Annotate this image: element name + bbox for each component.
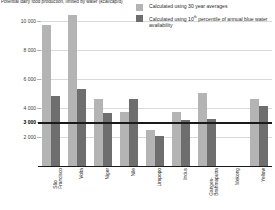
- bar-series-group: [38, 15, 272, 166]
- y-axis-tick-mark: [37, 79, 41, 80]
- legend-item-series-b: Calculated using 10th percentile of annu…: [136, 14, 275, 28]
- bar-group: [42, 15, 61, 166]
- legend-swatch-icon-a: [136, 4, 143, 11]
- y-axis-tick-mark: [37, 137, 41, 138]
- legend-item-series-a: Calculated using 30 year averages: [136, 3, 275, 12]
- y-axis-tick-label: 3 000: [2, 119, 36, 125]
- bar-series-a: [94, 99, 103, 166]
- y-axis-tick-label: 10 000: [2, 18, 36, 24]
- chart-legend: Calculated using 30 year averages Calcul…: [136, 3, 275, 30]
- bar-series-a: [120, 112, 129, 166]
- bar-series-b: [51, 96, 60, 166]
- bar-series-b: [129, 99, 138, 167]
- bar-group: [94, 15, 113, 166]
- legend-label-a: Calculated using 30 year averages: [149, 3, 275, 9]
- bar-series-a: [146, 130, 155, 166]
- y-axis-tick-label: 4 000: [2, 105, 36, 111]
- bar-series-a: [250, 99, 259, 167]
- bar-group: [146, 15, 165, 166]
- y-axis-tick-mark: [37, 50, 41, 51]
- gridline-emphasis-3000: [38, 122, 272, 123]
- x-axis-label: Indus: [183, 168, 188, 180]
- y-axis-tick-mark: [37, 108, 41, 109]
- x-axis-category-labels: São FranciscoVoltaNigerNileLimpopoIndusG…: [38, 168, 272, 210]
- bar-group: [224, 15, 243, 166]
- bar-series-b: [155, 136, 164, 166]
- bar-series-b: [103, 113, 112, 166]
- bar-series-b: [77, 89, 86, 166]
- legend-swatch-icon-b: [136, 15, 143, 22]
- x-axis-label: Limpopo: [157, 168, 162, 186]
- legend-label-b-pre: Calculated using 10: [149, 16, 194, 22]
- bar-group: [250, 15, 269, 166]
- bar-series-a: [198, 93, 207, 166]
- x-axis-label: Nile: [131, 168, 136, 176]
- bar-series-a: [172, 112, 181, 166]
- bar-group: [120, 15, 139, 166]
- y-axis-tick-label: 6 000: [2, 76, 36, 82]
- chart-container: Potential dairy food production, limited…: [0, 0, 275, 210]
- legend-label-b: Calculated using 10th percentile of annu…: [149, 14, 275, 28]
- y-axis-tick-mark: [37, 21, 41, 22]
- bar-group: [198, 15, 217, 166]
- bar-series-a: [42, 25, 51, 166]
- bar-series-b: [259, 106, 268, 166]
- x-axis-label: Mekong: [235, 168, 240, 185]
- x-axis-label: Niger: [105, 168, 110, 179]
- x-axis-label: Ganges- Brahmaputra: [209, 168, 220, 196]
- x-axis-label: Yellow: [261, 168, 266, 182]
- bar-series-b: [207, 119, 216, 166]
- plot-area: [38, 15, 272, 166]
- bar-group: [68, 15, 87, 166]
- y-axis-tick-label: 2 000: [2, 134, 36, 140]
- x-axis-label: São Francisco: [53, 168, 64, 189]
- bar-series-b: [181, 120, 190, 166]
- y-axis-tick-label: 8 000: [2, 47, 36, 53]
- bar-series-a: [68, 15, 77, 166]
- bar-group: [172, 15, 191, 166]
- x-axis-label: Volta: [79, 168, 84, 179]
